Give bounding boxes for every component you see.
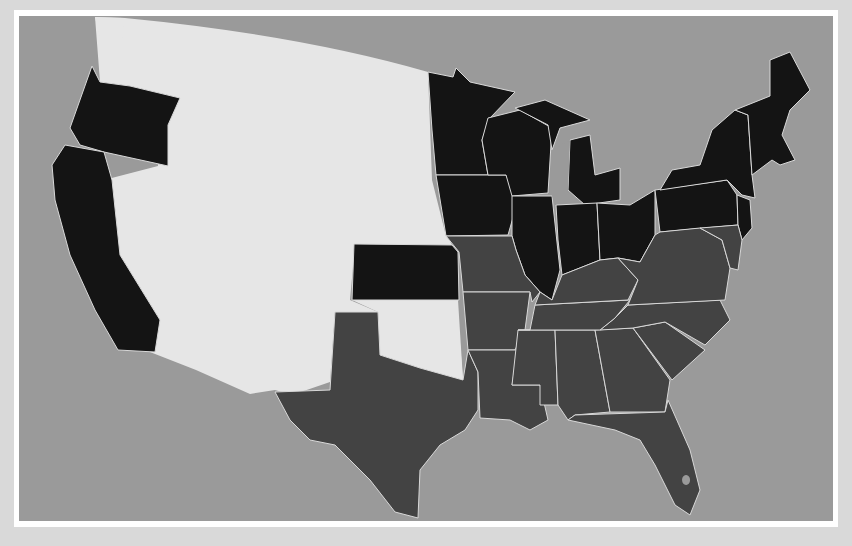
state-washington-partial: [95, 17, 125, 40]
state-kansas: [352, 244, 459, 300]
state-iowa: [436, 175, 518, 236]
us-map: [19, 16, 833, 521]
lake-michigan: [552, 140, 570, 205]
state-florida: [568, 400, 700, 515]
lake-okeechobee: [682, 475, 690, 485]
map-canvas: [19, 16, 833, 521]
